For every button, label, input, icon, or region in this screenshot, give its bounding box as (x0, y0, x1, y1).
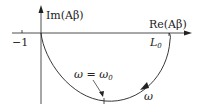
direction-arrow-icon (140, 82, 149, 90)
nyquist-diagram: Im(Aβ) Re(Aβ) −1 L0 ω = ω0 ω (0, 0, 199, 106)
omega-eq-omega0-label: ω = ω0 (74, 68, 113, 82)
minus-one-label: −1 (12, 36, 28, 49)
omega-label: ω (144, 90, 153, 103)
L0-label: L0 (149, 36, 162, 50)
omega0-pointer-arrow-icon (99, 91, 104, 97)
imag-axis-label: Im(Aβ) (46, 9, 84, 22)
real-axis-arrow-icon (184, 31, 192, 36)
imag-axis-arrow-icon (39, 5, 44, 13)
real-axis-label: Re(Aβ) (149, 18, 187, 31)
